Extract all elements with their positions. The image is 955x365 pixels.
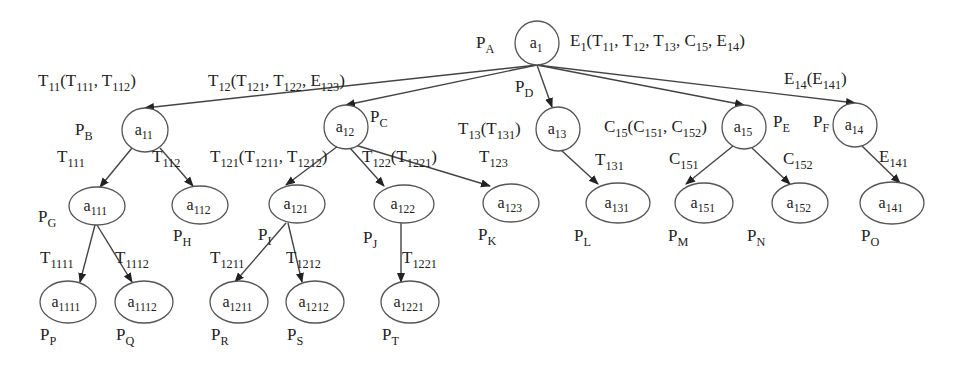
node-p-label: PK​ (478, 225, 496, 248)
node-a1[interactable]: a1​PA​ (476, 21, 559, 65)
node-p-label: PN​ (747, 226, 765, 249)
edge-label-T13: T13​(T131​) (458, 119, 521, 142)
node-a141[interactable]: a141​PO​ (860, 182, 924, 249)
node-p-label: PA​ (476, 33, 494, 56)
node-p-label: PQ​ (116, 325, 134, 348)
edge-label-C151: C151​ (669, 149, 699, 172)
edge-a1-a15 (537, 65, 744, 105)
node-p-label: PH​ (173, 226, 191, 249)
node-p-label: PL​ (574, 226, 591, 249)
edge-a1-a12 (346, 65, 537, 105)
edge-label-T131: T131​ (595, 150, 624, 173)
node-a13[interactable]: a13​PD​ (515, 77, 580, 151)
node-p-label: PE​ (773, 112, 790, 135)
node-p-label: PO​ (861, 226, 879, 249)
node-a131[interactable]: a131​PL​ (574, 183, 650, 249)
node-p-label: PJ​ (363, 228, 377, 251)
node-a152[interactable]: a152​PN​ (747, 183, 828, 249)
diagram-canvas: a1​PA​a11​PB​a12​PC​a13​PD​a15​PE​a14​PF… (0, 0, 955, 365)
edge-label-C15: C15​(C151​, C152​) (604, 117, 707, 140)
edge-label-T1212: T1212​ (286, 248, 321, 271)
edge-label-T1111: T1111​ (40, 248, 74, 271)
node-a122[interactable]: a122​PJ​ (363, 185, 434, 251)
node-a111[interactable]: a111​PG​ (38, 187, 125, 230)
edge-labels-layer: E1​(T11​, T12​, T13​, C15​, E14​)T11​(T1… (38, 31, 908, 271)
node-p-label: PT​ (382, 325, 399, 348)
edge-label-T1211: T1211​ (210, 248, 244, 271)
edge-label-C152: C152​ (783, 149, 813, 172)
edge-label-T123: T123​ (479, 147, 508, 170)
edge-a1-a13 (537, 65, 552, 107)
edges-layer (80, 65, 900, 282)
edge-label-T111: T111​ (57, 147, 85, 170)
tree-diagram: a1​PA​a11​PB​a12​PC​a13​PD​a15​PE​a14​PF… (0, 0, 955, 365)
node-a1212[interactable]: a1212​PS​ (286, 281, 344, 348)
node-p-label: PC​ (370, 107, 388, 130)
node-a151[interactable]: a151​PM​ (668, 183, 733, 249)
node-p-label: PM​ (668, 226, 688, 249)
node-a12[interactable]: a12​PC​ (324, 105, 388, 149)
edge-label-T1221: T1221​ (402, 248, 437, 271)
node-a1221[interactable]: a1221​PT​ (381, 281, 439, 348)
edge-a13-a131 (561, 150, 598, 184)
edge-label-E14: E14​(E141​) (784, 69, 847, 92)
node-p-label: PR​ (211, 325, 229, 348)
node-a112[interactable]: a112​PH​ (172, 186, 228, 249)
node-p-label: PP​ (40, 325, 56, 348)
edge-label-T12: T12​(T121​, T122​, E123​) (208, 71, 345, 94)
node-a14[interactable]: a14​PF​ (813, 103, 877, 147)
node-p-label: PS​ (287, 325, 303, 348)
node-a15[interactable]: a15​PE​ (722, 105, 790, 149)
node-p-label: PB​ (75, 120, 93, 143)
edge-label-T121: T121​(T1211​, T1212​) (210, 147, 328, 170)
node-a1211[interactable]: a1211​PR​ (210, 281, 268, 348)
edge-a11-a111 (100, 148, 132, 187)
edge-label-T11: T11​(T111​, T112​) (38, 71, 136, 94)
edge-label-T1112: T1112​ (115, 248, 149, 271)
node-a11[interactable]: a11​PB​ (75, 108, 168, 152)
node-p-label: PI​ (258, 225, 272, 248)
node-a1111[interactable]: a1111​PP​ (40, 281, 96, 348)
node-p-label: PD​ (515, 77, 533, 100)
edge-a111-a1111 (80, 225, 95, 282)
edge-label-T112: T112​ (152, 147, 180, 170)
node-a123[interactable]: a123​PK​ (478, 184, 539, 248)
node-p-label: PF​ (813, 112, 829, 135)
node-a1112[interactable]: a1112​PQ​ (115, 281, 173, 348)
edge-label-E1: E1​(T11​, T12​, T13​, C15​, E14​) (570, 31, 745, 54)
node-p-label: PG​ (38, 207, 56, 230)
